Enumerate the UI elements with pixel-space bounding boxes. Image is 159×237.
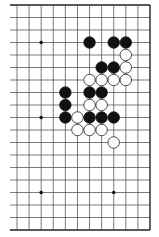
white-stone <box>84 124 95 135</box>
star-point <box>112 191 116 195</box>
black-stone <box>60 112 71 123</box>
white-stone <box>108 137 119 148</box>
black-stone <box>84 112 95 123</box>
black-stone <box>96 87 107 98</box>
white-stone <box>72 124 83 135</box>
black-stone <box>120 37 131 48</box>
black-stone <box>108 112 119 123</box>
white-stone <box>96 74 107 85</box>
black-stone <box>60 87 71 98</box>
black-stone <box>96 62 107 73</box>
white-stone <box>96 124 107 135</box>
white-stone <box>108 74 119 85</box>
white-stone <box>120 74 131 85</box>
black-stone <box>84 37 95 48</box>
go-board <box>0 0 159 237</box>
black-stone <box>108 37 119 48</box>
star-point <box>39 116 43 120</box>
black-stone <box>60 99 71 110</box>
white-stone <box>120 62 131 73</box>
star-point <box>39 41 43 45</box>
black-stone <box>108 62 119 73</box>
white-stone <box>84 99 95 110</box>
white-stone <box>120 49 131 60</box>
white-stone <box>72 112 83 123</box>
white-stone <box>96 99 107 110</box>
black-stone <box>96 112 107 123</box>
black-stone <box>84 87 95 98</box>
star-point <box>39 191 43 195</box>
white-stone <box>84 74 95 85</box>
